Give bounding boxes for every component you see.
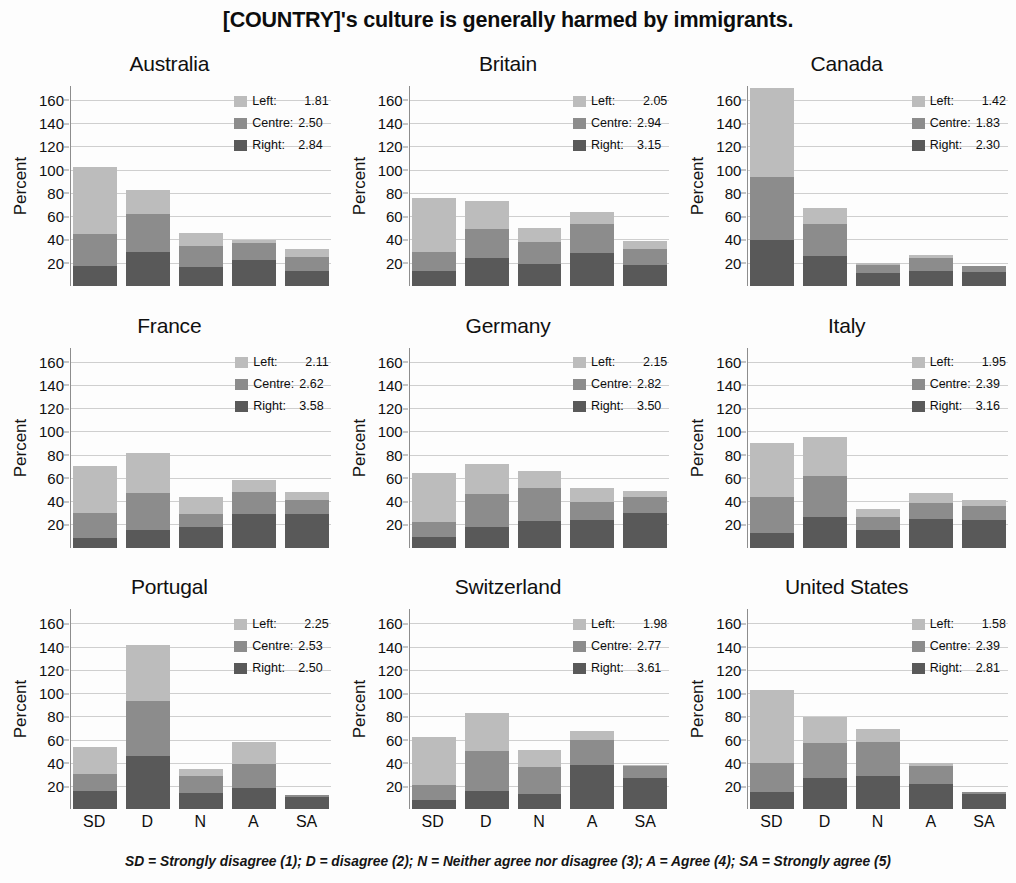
- bar-segment-right: [465, 527, 509, 548]
- bar-segment-right: [126, 252, 170, 286]
- y-tick-label: 80: [386, 708, 403, 725]
- legend-value: 3.15: [637, 139, 661, 152]
- y-tick-mark: [64, 239, 69, 240]
- y-axis-ticks: 20406080100120140160: [699, 609, 741, 809]
- bar-segment-centre: [232, 764, 276, 788]
- panel-title: United States: [677, 575, 1016, 599]
- stacked-bar-sa: [623, 765, 667, 809]
- bar-segment-right: [909, 271, 953, 286]
- legend-row-left: Left:2.25: [234, 613, 328, 635]
- x-tick-label: SD: [72, 813, 116, 831]
- legend-swatch-left-icon: [573, 619, 586, 630]
- bar-segment-right: [623, 513, 667, 548]
- y-tick-mark: [741, 786, 746, 787]
- bar-segment-centre: [856, 517, 900, 530]
- stacked-bar-d: [465, 713, 509, 809]
- y-tick-mark: [741, 716, 746, 717]
- x-axis: SDDNASA: [70, 813, 331, 839]
- panel-legend: Left:2.25Centre:2.53Right:2.50: [234, 613, 328, 679]
- y-tick-label: 40: [725, 231, 742, 248]
- bar-segment-centre: [856, 742, 900, 776]
- legend-label: Centre:: [930, 378, 972, 391]
- bar-segment-centre: [962, 506, 1006, 520]
- y-tick-mark: [741, 431, 746, 432]
- legend-swatch-left-icon: [573, 96, 586, 107]
- plot-area-wrapper: Percent20406080100120140160Left:2.15Cent…: [339, 348, 670, 548]
- y-tick-label: 100: [39, 685, 64, 702]
- y-tick-mark: [64, 263, 69, 264]
- legend-value: 2.50: [298, 117, 322, 130]
- bar-segment-left: [856, 729, 900, 742]
- legend-swatch-right-icon: [912, 663, 925, 674]
- panel-legend: Left:2.05Centre:2.94Right:3.15: [573, 90, 667, 156]
- panel-title: Switzerland: [339, 575, 678, 599]
- bar-segment-centre: [465, 494, 509, 527]
- panel-germany: GermanyPercent20406080100120140160Left:2…: [339, 314, 678, 576]
- x-axis: SDDNASA: [747, 813, 1008, 839]
- bar-segment-left: [126, 190, 170, 214]
- x-tick-label: D: [125, 813, 169, 831]
- bar-segment-left: [73, 167, 117, 233]
- bar-segment-right: [962, 794, 1006, 809]
- stacked-bar-a: [909, 255, 953, 286]
- bar-segment-centre: [623, 249, 667, 265]
- y-tick-label: 120: [378, 138, 403, 155]
- bar-segment-left: [465, 464, 509, 494]
- stacked-bar-d: [126, 645, 170, 809]
- bar-segment-right: [126, 756, 170, 809]
- y-tick-mark: [64, 455, 69, 456]
- bar-segment-right: [412, 800, 456, 809]
- panel-title: Germany: [339, 314, 678, 338]
- y-tick-mark: [403, 146, 408, 147]
- stacked-bar-sa: [285, 795, 329, 809]
- y-tick-mark: [741, 216, 746, 217]
- legend-label: Centre:: [591, 378, 633, 391]
- legend-value: 1.81: [304, 95, 328, 108]
- panel-switzerland: SwitzerlandPercent20406080100120140160Le…: [339, 575, 678, 837]
- legend-label: Left:: [930, 618, 972, 631]
- bar-segment-centre: [412, 785, 456, 800]
- y-tick-label: 140: [39, 115, 64, 132]
- plot-area: Left:2.25Centre:2.53Right:2.50: [70, 609, 331, 809]
- panel-title: Italy: [677, 314, 1016, 338]
- legend-swatch-centre-icon: [573, 641, 586, 652]
- y-tick-mark: [741, 100, 746, 101]
- bar-segment-right: [856, 776, 900, 810]
- y-tick-label: 80: [386, 446, 403, 463]
- y-tick-mark: [403, 123, 408, 124]
- bar-segment-right: [73, 791, 117, 810]
- bar-segment-centre: [465, 229, 509, 258]
- plot-area-wrapper: Percent20406080100120140160Left:2.05Cent…: [339, 86, 670, 286]
- y-tick-label: 20: [725, 778, 742, 795]
- legend-swatch-left-icon: [234, 96, 247, 107]
- y-tick-mark: [64, 670, 69, 671]
- y-tick-label: 120: [716, 400, 741, 417]
- bar-segment-centre: [570, 740, 614, 766]
- y-tick-mark: [403, 193, 408, 194]
- y-tick-mark: [64, 623, 69, 624]
- y-tick-mark: [64, 478, 69, 479]
- stacked-bar-d: [803, 437, 847, 547]
- y-tick-mark: [64, 408, 69, 409]
- bar-segment-right: [285, 797, 329, 810]
- bar-segment-right: [750, 533, 794, 548]
- y-tick-label: 100: [39, 161, 64, 178]
- y-tick-label: 80: [47, 708, 64, 725]
- y-tick-mark: [741, 146, 746, 147]
- y-tick-mark: [403, 501, 408, 502]
- y-tick-label: 140: [378, 638, 403, 655]
- legend-swatch-left-icon: [912, 357, 925, 368]
- legend-swatch-centre-icon: [912, 379, 925, 390]
- bar-segment-left: [909, 493, 953, 503]
- y-tick-label: 60: [725, 469, 742, 486]
- y-tick-label: 20: [47, 516, 64, 533]
- legend-row-left: Left:1.95: [912, 352, 1006, 374]
- stacked-bar-sa: [285, 492, 329, 548]
- legend-row-centre: Centre:2.82: [573, 374, 667, 396]
- stacked-bar-d: [126, 453, 170, 547]
- bar-segment-centre: [126, 701, 170, 756]
- x-tick-label: A: [909, 813, 953, 831]
- y-tick-label: 120: [39, 400, 64, 417]
- legend-label: Left:: [591, 95, 633, 108]
- y-tick-mark: [741, 170, 746, 171]
